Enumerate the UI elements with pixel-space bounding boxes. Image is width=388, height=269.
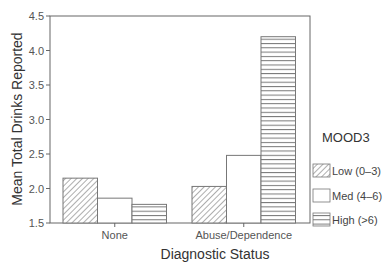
legend: MOOD3 Low (0–3) Med (4–6) High (>6) <box>313 130 382 226</box>
legend-swatch-high <box>313 213 330 226</box>
y-tick-label: 1.5 <box>29 217 44 229</box>
bar <box>132 204 167 223</box>
bar <box>192 186 227 223</box>
bar <box>98 198 133 223</box>
legend-swatch-med <box>313 189 330 202</box>
x-axis-title: Diagnostic Status <box>161 246 270 262</box>
bar-chart: 1.52.02.53.03.54.04.5 NoneAbuse/Dependen… <box>0 0 388 269</box>
y-axis-title: Mean Total Drinks Reported <box>9 32 25 205</box>
bar <box>63 178 98 223</box>
y-tick-label: 4.0 <box>29 45 44 57</box>
legend-swatch-low <box>313 164 330 177</box>
y-tick-label: 4.5 <box>29 10 44 22</box>
bars <box>63 37 296 223</box>
x-tick-label: None <box>102 229 128 241</box>
y-tick-label: 2.0 <box>29 183 44 195</box>
y-tick-label: 3.5 <box>29 79 44 91</box>
legend-label-high: High (>6) <box>332 214 378 226</box>
bar <box>261 37 296 223</box>
legend-label-med: Med (4–6) <box>332 190 382 202</box>
x-tick-label: Abuse/Dependence <box>195 229 292 241</box>
y-tick-label: 3.0 <box>29 114 44 126</box>
legend-title: MOOD3 <box>322 130 370 145</box>
bar <box>227 155 262 223</box>
y-tick-label: 2.5 <box>29 148 44 160</box>
y-axis: 1.52.02.53.03.54.04.5 <box>29 10 50 229</box>
legend-label-low: Low (0–3) <box>332 165 381 177</box>
x-axis: NoneAbuse/Dependence <box>102 223 292 241</box>
